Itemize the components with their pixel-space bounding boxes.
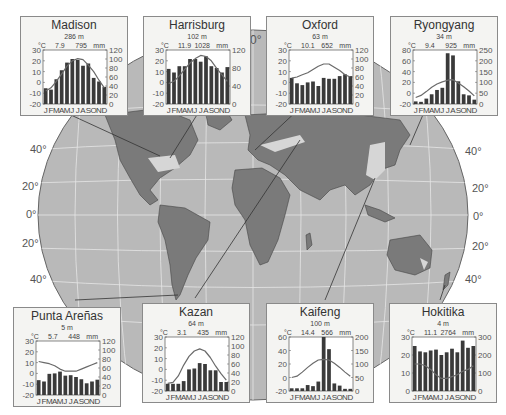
svg-text:80: 80 (232, 64, 241, 73)
svg-text:7.9: 7.9 (55, 42, 65, 49)
svg-text:J: J (166, 393, 170, 402)
svg-text:0: 0 (283, 78, 288, 87)
svg-text:80: 80 (231, 351, 240, 360)
svg-text:925: 925 (445, 42, 457, 49)
svg-text:100: 100 (102, 346, 116, 355)
svg-text:0: 0 (159, 365, 164, 374)
svg-text:-20: -20 (151, 387, 163, 396)
svg-text:J: J (70, 106, 74, 115)
svg-text:mm: mm (216, 42, 228, 49)
svg-text:60: 60 (109, 73, 118, 82)
svg-text:J: J (198, 393, 202, 402)
climatogram: °C11.91028mm3020100-10-2012080400JFMAMJJ… (144, 17, 252, 117)
svg-text:80: 80 (102, 355, 111, 364)
svg-text:J: J (316, 393, 320, 402)
svg-text:795: 795 (75, 42, 87, 49)
svg-text:10: 10 (278, 68, 287, 77)
climate-chart-punta-arenas: Punta Areñas5 m°C5.7448mm3020100-10-2012… (13, 307, 121, 407)
svg-text:J: J (199, 106, 203, 115)
svg-text:mm: mm (93, 42, 105, 49)
svg-text:652: 652 (321, 42, 333, 49)
svg-text:40: 40 (102, 373, 111, 382)
svg-text:0: 0 (231, 387, 236, 396)
svg-text:J: J (445, 393, 449, 402)
svg-text:-10: -10 (151, 376, 163, 385)
svg-text:1028: 1028 (194, 42, 210, 49)
svg-text:80: 80 (402, 46, 411, 55)
svg-text:10.1: 10.1 (301, 42, 315, 49)
svg-text:20: 20 (155, 57, 164, 66)
svg-text:-20: -20 (22, 391, 34, 400)
svg-text:J: J (76, 106, 80, 115)
svg-text:J: J (167, 106, 171, 115)
svg-text:0: 0 (407, 89, 412, 98)
svg-text:mm: mm (463, 42, 475, 49)
svg-text:2764: 2764 (440, 329, 456, 336)
svg-text:30: 30 (401, 333, 410, 342)
svg-text:mm: mm (462, 329, 474, 336)
climatogram: °C10.1652mm3020100-10-20120100806040200J… (267, 17, 375, 117)
svg-text:0: 0 (30, 369, 35, 378)
svg-text:0: 0 (160, 78, 165, 87)
svg-text:11.9: 11.9 (178, 42, 191, 49)
lat-label-right-40n: 40° (465, 145, 482, 157)
svg-text:120: 120 (355, 46, 369, 55)
svg-text:30: 30 (154, 333, 163, 342)
svg-text:J: J (193, 106, 197, 115)
svg-text:120: 120 (232, 46, 246, 55)
svg-text:448: 448 (68, 333, 80, 340)
svg-text:J: J (413, 393, 417, 402)
svg-text:J: J (316, 106, 320, 115)
svg-text:-20: -20 (152, 100, 164, 109)
svg-text:250: 250 (479, 46, 493, 55)
svg-text:566: 566 (321, 329, 333, 336)
svg-text:50: 50 (479, 89, 488, 98)
svg-text:100: 100 (109, 55, 123, 64)
svg-text:40: 40 (355, 82, 364, 91)
climate-chart-kaifeng: Kaifeng100 m°C14.4566mm6040200-202001501… (266, 303, 374, 403)
svg-text:-10: -10 (22, 380, 34, 389)
svg-text:-20: -20 (399, 100, 411, 109)
svg-text:120: 120 (231, 333, 245, 342)
svg-text:14.4: 14.4 (301, 329, 315, 336)
svg-text:J: J (69, 397, 73, 406)
svg-text:10: 10 (401, 369, 410, 378)
svg-text:40: 40 (278, 347, 287, 356)
climate-chart-oxford: Oxford63 m°C10.1652mm3020100-10-20120100… (266, 16, 374, 116)
svg-text:200: 200 (355, 333, 369, 342)
svg-text:20: 20 (25, 348, 34, 357)
svg-text:10: 10 (25, 359, 34, 368)
svg-text:10: 10 (154, 355, 163, 364)
svg-text:J: J (414, 106, 418, 115)
svg-text:-10: -10 (152, 89, 164, 98)
svg-text:D: D (347, 393, 353, 402)
svg-text:30: 30 (25, 337, 34, 346)
svg-text:150: 150 (355, 347, 369, 356)
climate-chart-harrisburg: Harrisburg102 m°C11.91028mm3020100-10-20… (143, 16, 251, 116)
svg-text:J: J (63, 397, 67, 406)
climate-chart-madison: Madison286 m°C7.9795mm3020100-10-2012010… (20, 16, 128, 116)
svg-text:-20: -20 (275, 387, 287, 396)
svg-text:D: D (101, 106, 107, 115)
svg-text:0: 0 (102, 391, 107, 400)
lat-label-right-20n: 20° (472, 182, 489, 194)
lat-label-left-20n: 20° (22, 180, 39, 192)
svg-text:mm: mm (215, 329, 227, 336)
svg-text:100: 100 (355, 55, 369, 64)
lat-label-left-0: 0° (26, 208, 37, 220)
lat-label-left-20s: 20° (22, 237, 39, 249)
svg-text:-20: -20 (29, 100, 41, 109)
svg-text:11.1: 11.1 (424, 329, 437, 336)
lat-label-right-20s: 20° (472, 240, 489, 252)
svg-text:100: 100 (355, 360, 369, 369)
svg-text:D: D (471, 106, 477, 115)
svg-text:mm: mm (86, 333, 98, 340)
svg-text:D: D (94, 397, 100, 406)
svg-text:20: 20 (402, 78, 411, 87)
svg-text:60: 60 (231, 360, 240, 369)
svg-text:40: 40 (231, 369, 240, 378)
svg-text:40: 40 (402, 68, 411, 77)
svg-text:mm: mm (339, 42, 351, 49)
svg-text:0: 0 (355, 387, 360, 396)
svg-text:30: 30 (32, 46, 41, 55)
